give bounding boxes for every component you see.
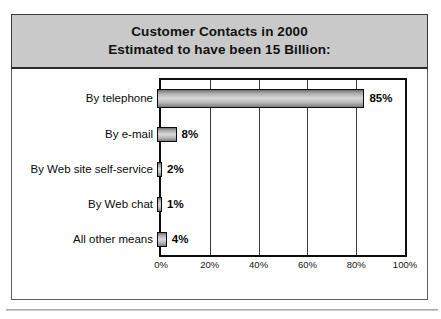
bar-value-label: 4% <box>172 233 189 246</box>
bar-value-label: 85% <box>369 92 392 105</box>
chart-title-line-2: Estimated to have been 15 Billion: <box>108 41 330 59</box>
x-tick-label: 20% <box>200 259 219 270</box>
bottom-divider <box>6 309 438 312</box>
x-tick-label: 0% <box>154 259 168 270</box>
bar-track: 2% <box>157 158 427 180</box>
x-axis: 0%20%40%60%80%100% <box>159 259 407 275</box>
category-label: By telephone <box>12 92 157 105</box>
category-label: By Web site self-service <box>12 163 157 176</box>
bar-row: By Web chat1% <box>12 193 427 215</box>
bar-value-label: 1% <box>167 198 184 211</box>
bar-track: 4% <box>157 228 427 250</box>
category-label: By e-mail <box>12 128 157 141</box>
x-tick-label: 100% <box>393 259 417 270</box>
x-tick-label: 60% <box>298 259 317 270</box>
x-tick-label: 80% <box>347 259 366 270</box>
category-label: All other means <box>12 233 157 246</box>
bar-track: 85% <box>157 87 427 109</box>
x-tick-label: 40% <box>249 259 268 270</box>
bar-chart: By telephone85%By e-mail8%By Web site se… <box>12 69 427 299</box>
bar[interactable] <box>157 197 162 212</box>
chart-title-band: Customer Contacts in 2000 Estimated to h… <box>11 14 428 69</box>
bar-row: All other means4% <box>12 228 427 250</box>
bar[interactable] <box>157 162 162 177</box>
bar-track: 1% <box>157 193 427 215</box>
bar-row: By Web site self-service2% <box>12 158 427 180</box>
bar[interactable] <box>157 127 177 142</box>
bar-value-label: 2% <box>167 163 184 176</box>
bar-row: By e-mail8% <box>12 123 427 145</box>
bar-value-label: 8% <box>182 128 199 141</box>
bar-track: 8% <box>157 123 427 145</box>
chart-title-line-1: Customer Contacts in 2000 <box>131 23 308 41</box>
bar[interactable] <box>157 89 364 108</box>
category-label: By Web chat <box>12 198 157 211</box>
bar-row: By telephone85% <box>12 87 427 109</box>
bar[interactable] <box>157 232 167 247</box>
